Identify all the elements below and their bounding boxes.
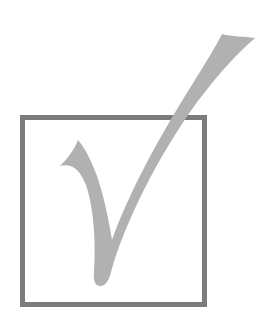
checkmark-icon — [0, 0, 272, 322]
checkbox-illustration: Checkmark in a square box — [0, 0, 272, 322]
checkmark-stroke — [60, 34, 255, 286]
